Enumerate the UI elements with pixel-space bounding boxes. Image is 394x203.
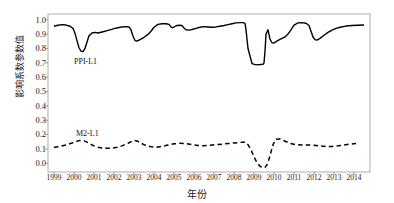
x-tick-label: 2003 [127,174,142,182]
x-tick-label: 2012 [307,174,322,182]
chart-container: 影响系数参数值 1.00.90.80.70.60.50.40.30.20.10.… [0,0,394,203]
x-tick-label: 2000 [67,174,82,182]
x-tick-label: 2004 [147,174,162,182]
x-tick-label: 1999 [47,174,62,182]
x-tick-label: 2008 [227,174,242,182]
y-axis-ticks [45,20,48,164]
x-axis-label: 年份 [0,186,394,201]
x-tick-label: 2010 [267,174,282,182]
x-tick-label: 2014 [347,174,362,182]
series-label-m2-l1: M2-L1 [76,129,99,138]
x-tick-label: 2007 [207,174,222,182]
x-tick-label: 2005 [167,174,182,182]
x-tick-label: 2001 [87,174,102,182]
x-tick-label: 2013 [327,174,342,182]
x-tick-label: 2011 [287,174,302,182]
series-label-ppi-l1: PPI-L1 [74,57,97,66]
x-tick-label: 2002 [107,174,122,182]
x-tick-label: 2009 [247,174,262,182]
x-tick-label: 2006 [187,174,202,182]
x-axis-tick-labels: 1999200020012002200320042005200620072008… [0,174,394,186]
